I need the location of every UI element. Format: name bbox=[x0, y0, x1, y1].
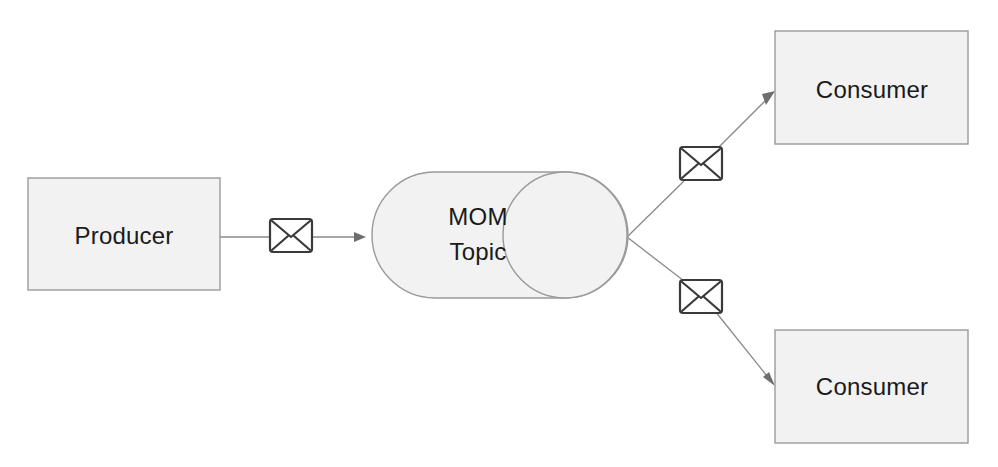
consumer-bottom-label: Consumer bbox=[816, 373, 928, 400]
mom-topic-label-line2: Topic bbox=[449, 238, 506, 265]
connector-segment-envelope-consumer-bottom bbox=[715, 311, 771, 381]
producer-label: Producer bbox=[75, 222, 174, 249]
diagram-canvas: Producer MOM Topic Consumer Consumer bbox=[0, 0, 998, 467]
envelope-icon-consumer-bottom[interactable] bbox=[680, 280, 722, 313]
arrowhead-into-topic bbox=[354, 232, 366, 242]
connector-segment-envelope-consumer-top bbox=[719, 95, 771, 147]
envelope-icon-producer[interactable] bbox=[270, 219, 312, 252]
node-mom-topic[interactable]: MOM Topic bbox=[372, 172, 628, 298]
envelope-icon-consumer-top[interactable] bbox=[680, 147, 722, 180]
connector-segment-topic-envelope-top bbox=[627, 181, 684, 237]
node-consumer-top[interactable]: Consumer bbox=[775, 31, 968, 144]
consumer-top-label: Consumer bbox=[816, 76, 928, 103]
mom-topic-cylinder-cap bbox=[503, 172, 627, 298]
mom-topic-label-line1: MOM bbox=[448, 203, 507, 230]
node-consumer-bottom[interactable]: Consumer bbox=[775, 330, 968, 443]
connector-segment-topic-envelope-bottom bbox=[627, 237, 684, 281]
node-producer[interactable]: Producer bbox=[28, 178, 220, 290]
diagram-svg: Producer MOM Topic Consumer Consumer bbox=[0, 0, 998, 467]
